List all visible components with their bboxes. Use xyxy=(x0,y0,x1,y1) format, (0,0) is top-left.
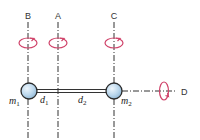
axis-a-label: A xyxy=(55,11,61,21)
rotation-axes-diagram: B A C D xyxy=(0,0,200,140)
axis-c: C xyxy=(105,11,123,140)
mass-m1-label: m1 xyxy=(9,95,20,108)
axis-c-label: C xyxy=(111,11,118,21)
rod xyxy=(36,90,106,93)
mass-m2-label: m2 xyxy=(121,95,132,108)
axis-a: A xyxy=(49,11,67,140)
axis-d: D xyxy=(122,82,188,100)
mass-m2: m2 xyxy=(106,83,132,108)
axis-d-label: D xyxy=(181,87,188,97)
mass-m1: m1 xyxy=(9,83,37,108)
axis-b: B xyxy=(19,11,37,140)
distance-d1-label: d1 xyxy=(40,94,49,107)
axis-b-label: B xyxy=(25,11,31,21)
distance-d2-label: d2 xyxy=(78,94,87,107)
